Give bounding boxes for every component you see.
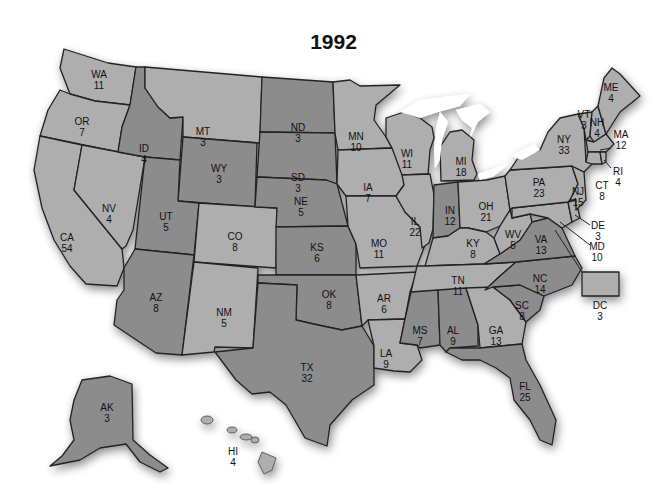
state-abbr: UT (159, 211, 172, 222)
state-label-wy: WY3 (211, 163, 227, 185)
state-abbr: TX (301, 362, 314, 373)
state-label-az: AZ8 (150, 292, 163, 314)
state-label-ma: MA12 (614, 129, 629, 151)
state-abbr: NJ (572, 186, 584, 197)
state-CT (586, 152, 602, 164)
state-AK (50, 376, 168, 472)
electoral-votes: 8 (595, 191, 608, 202)
state-label-in: IN12 (444, 205, 455, 227)
electoral-votes: 4 (102, 214, 116, 225)
state-abbr: WI (401, 148, 413, 159)
state-abbr: MO (371, 238, 387, 249)
state-abbr: WY (211, 163, 227, 174)
state-label-hi: HI4 (228, 446, 238, 468)
state-label-mo: MO11 (371, 238, 387, 260)
electoral-votes: 54 (60, 243, 74, 254)
electoral-votes: 12 (444, 216, 455, 227)
electoral-votes: 14 (533, 284, 547, 295)
state-label-nj: NJ15 (572, 186, 584, 208)
state-label-wa: WA11 (91, 69, 107, 91)
state-label-wi: WI11 (401, 148, 413, 170)
state-abbr: NE (294, 196, 308, 207)
state-label-ny: NY33 (557, 134, 571, 156)
electoral-votes: 10 (348, 142, 364, 153)
electoral-votes: 6 (310, 253, 323, 264)
electoral-votes: 3 (291, 183, 305, 194)
state-label-ar: AR6 (377, 293, 391, 315)
electoral-votes: 7 (75, 127, 90, 138)
state-abbr: MT (196, 126, 210, 137)
state-label-la: LA9 (380, 348, 392, 370)
state-label-ne: NE5 (294, 196, 308, 218)
state-label-ks: KS6 (310, 242, 323, 264)
state-abbr: VT (578, 109, 591, 120)
electoral-votes: 8 (466, 249, 479, 260)
electoral-votes: 5 (505, 240, 521, 251)
electoral-votes: 4 (139, 154, 149, 165)
state-HI (201, 416, 276, 474)
state-abbr: MI (455, 156, 466, 167)
state-label-or: OR7 (75, 116, 90, 138)
state-label-dc: DC3 (593, 300, 607, 322)
state-label-ct: CT8 (595, 180, 608, 202)
state-abbr: OR (75, 116, 90, 127)
electoral-votes: 8 (228, 242, 243, 253)
electoral-votes: 7 (413, 336, 428, 347)
electoral-votes: 15 (572, 197, 584, 208)
electoral-votes: 11 (401, 159, 413, 170)
state-label-tx: TX32 (301, 362, 314, 384)
state-label-sd: SD3 (291, 172, 305, 194)
state-abbr: CT (595, 180, 608, 191)
state-label-tn: TN11 (451, 275, 464, 297)
state-label-nm: NM5 (216, 307, 232, 329)
electoral-votes: 3 (593, 311, 607, 322)
state-label-id: ID4 (139, 143, 149, 165)
state-abbr: ID (139, 143, 149, 154)
state-abbr: DE (591, 220, 605, 231)
state-abbr: FL (519, 381, 531, 392)
state-label-wv: WV5 (505, 229, 521, 251)
state-label-de: DE3 (591, 220, 605, 242)
state-abbr: AZ (150, 292, 163, 303)
state-abbr: HI (228, 446, 238, 457)
state-label-sc: SC8 (515, 300, 529, 322)
electoral-votes: 5 (294, 207, 308, 218)
state-abbr: DC (593, 300, 607, 311)
electoral-votes: 9 (447, 336, 459, 347)
electoral-votes: 32 (301, 373, 314, 384)
state-abbr: SC (515, 300, 529, 311)
state-label-nc: NC14 (533, 273, 547, 295)
state-abbr: TN (451, 275, 464, 286)
state-label-fl: FL25 (519, 381, 531, 403)
electoral-votes: 4 (228, 457, 238, 468)
electoral-votes: 5 (216, 318, 232, 329)
state-DC (582, 272, 619, 296)
electoral-votes: 13 (489, 336, 503, 347)
state-abbr: IN (444, 205, 455, 216)
state-label-co: CO8 (228, 231, 243, 253)
state-label-mi: MI18 (455, 156, 466, 178)
electoral-votes: 8 (322, 300, 336, 311)
state-abbr: CA (60, 232, 74, 243)
state-label-nd: ND3 (291, 122, 305, 144)
electoral-votes: 3 (291, 133, 305, 144)
state-abbr: SD (291, 172, 305, 183)
state-abbr: LA (380, 348, 392, 359)
electoral-votes: 5 (159, 222, 172, 233)
state-label-ky: KY8 (466, 238, 479, 260)
electoral-votes: 11 (91, 80, 107, 91)
state-label-pa: PA23 (533, 177, 546, 199)
state-FL (446, 344, 556, 445)
state-abbr: OH (479, 201, 494, 212)
state-abbr: NH (590, 117, 604, 128)
state-abbr: KY (466, 238, 479, 249)
state-abbr: IL (409, 216, 420, 227)
state-label-ri: RI4 (613, 166, 623, 188)
electoral-votes: 12 (614, 140, 629, 151)
state-abbr: WV (505, 229, 521, 240)
state-abbr: NY (557, 134, 571, 145)
state-label-oh: OH21 (479, 201, 494, 223)
electoral-votes: 3 (211, 174, 227, 185)
state-label-ia: IA7 (363, 182, 372, 204)
electoral-votes: 3 (100, 413, 113, 424)
